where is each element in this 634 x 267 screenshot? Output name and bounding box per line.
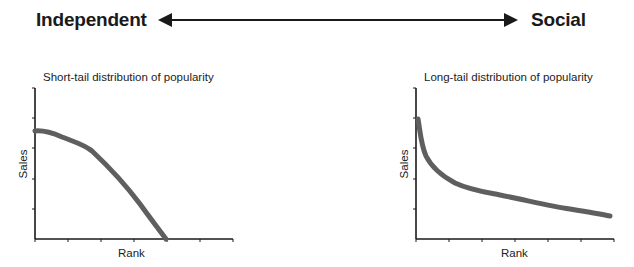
long-tail-chart-title: Long-tail distribution of popularity xyxy=(424,71,593,83)
short-tail-x-axis-label: Rank xyxy=(118,247,145,259)
long-tail-y-axis-label: Sales xyxy=(398,150,410,179)
y-axis xyxy=(32,88,35,239)
double-headed-arrow-icon xyxy=(158,13,518,27)
diagram-canvas xyxy=(0,0,634,267)
short-tail-y-axis-label: Sales xyxy=(17,150,29,179)
long-tail-chart xyxy=(413,88,614,242)
long-tail-x-axis-label: Rank xyxy=(501,247,528,259)
y-axis xyxy=(413,88,416,239)
short-tail-chart-title: Short-tail distribution of popularity xyxy=(43,71,214,83)
short-tail-chart xyxy=(32,88,233,242)
long-tail-curve xyxy=(418,119,610,216)
x-axis xyxy=(35,239,233,242)
x-axis xyxy=(416,239,614,242)
short-tail-curve xyxy=(35,131,166,239)
